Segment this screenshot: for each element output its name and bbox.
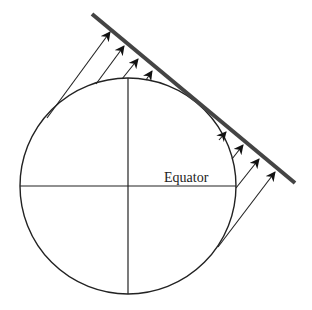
ray-arrow: [47, 32, 110, 118]
equator-label: Equator: [164, 170, 209, 185]
ray-arrow: [146, 71, 152, 80]
ray-arrow: [122, 59, 138, 79]
ray-arrow: [236, 159, 259, 188]
ray-arrow: [232, 145, 243, 159]
incoming-rays-upper: [47, 32, 152, 118]
tangent-plane: [92, 14, 295, 183]
diagram-canvas: Equator: [0, 0, 312, 310]
ray-arrow: [218, 172, 275, 247]
